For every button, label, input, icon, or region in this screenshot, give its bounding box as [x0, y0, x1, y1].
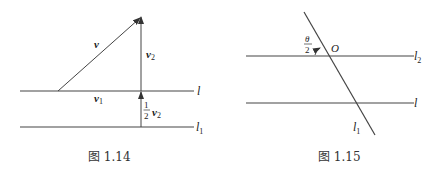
label-line-l: l: [414, 96, 418, 110]
label-line-l1: l1: [196, 120, 203, 136]
diagram-canvas: v v2 v1 1 2 v2 l l1 图 1.14 θ 2 O l2 l l1…: [0, 0, 442, 175]
figure-1-14: v v2 v1 1 2 v2 l l1 图 1.14: [20, 17, 203, 164]
vector-v-arrow: [58, 18, 140, 91]
label-v: v: [94, 38, 99, 50]
label-v2: v2: [146, 48, 155, 62]
label-v1: v1: [94, 92, 103, 106]
label-line-l2: l2: [414, 49, 421, 65]
theta-numerator: θ: [305, 34, 310, 44]
label-theta-half: θ 2: [304, 34, 312, 55]
figure-1-15: θ 2 O l2 l l1 图 1.15: [246, 12, 421, 164]
caption-fig-1-15: 图 1.15: [318, 150, 361, 164]
svg-text:v2: v2: [152, 106, 161, 120]
fraction-numerator: 1: [144, 100, 149, 110]
label-point-o: O: [331, 42, 339, 54]
caption-fig-1-14: 图 1.14: [88, 150, 131, 164]
label-line-l1: l1: [353, 120, 360, 136]
line-l1-oblique: [304, 12, 375, 135]
theta-denominator: 2: [305, 45, 310, 55]
fraction-denominator: 2: [144, 111, 149, 121]
label-line-l: l: [197, 84, 201, 98]
angle-arc: [315, 48, 320, 55]
label-half-v2: 1 2 v2: [144, 100, 161, 121]
